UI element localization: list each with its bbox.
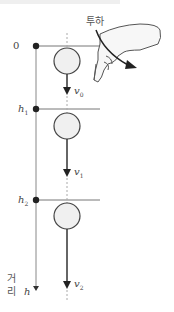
h1-sub: 1 — [24, 109, 28, 116]
axis-label-char-1: 거 — [7, 274, 16, 284]
v0-sub: 0 — [80, 91, 84, 98]
arrowhead-v0-icon — [63, 87, 71, 95]
v2-sub: 2 — [80, 284, 84, 291]
arrowhead-v1-icon — [63, 169, 71, 177]
axis-arrow-icon — [33, 286, 39, 291]
arrowhead-v2-icon — [63, 281, 71, 289]
ball-2 — [54, 203, 80, 229]
v1-sub: 1 — [80, 172, 84, 179]
axis-variable-label: h — [24, 287, 30, 297]
drop-label: 투하 — [86, 17, 104, 27]
level-dot-h2 — [33, 197, 39, 203]
level-label-0: 0 — [13, 41, 19, 51]
velocity-label-v2: v2 — [74, 279, 83, 291]
free-fall-diagram — [0, 0, 174, 312]
hand-icon — [94, 24, 161, 82]
ball-1 — [54, 113, 80, 139]
release-arrowhead-icon — [125, 60, 137, 69]
ball-0 — [54, 48, 80, 74]
level-label-h2: h2 — [18, 195, 28, 207]
level-dot-0 — [33, 43, 39, 49]
axis-label-char-2: 리 — [7, 287, 16, 297]
velocity-label-v1: v1 — [74, 167, 83, 179]
level-label-h1: h1 — [18, 104, 28, 116]
level-dot-h1 — [33, 106, 39, 112]
h2-sub: 2 — [24, 200, 28, 207]
velocity-label-v0: v0 — [74, 86, 83, 98]
